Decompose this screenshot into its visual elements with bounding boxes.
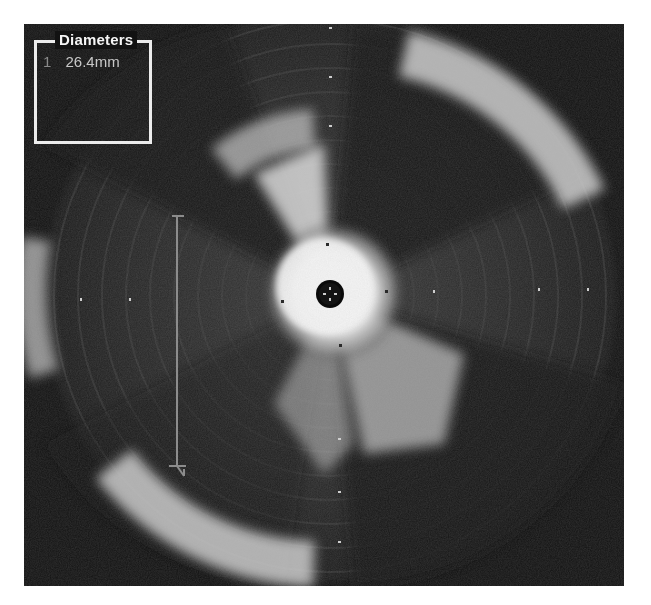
measurement-value: 26.4mm <box>66 53 120 70</box>
diameters-title: Diameters <box>55 31 137 49</box>
ultrasound-frame: Diameters 1 26.4mm <box>24 24 624 586</box>
diameters-panel: Diameters 1 26.4mm <box>34 40 152 144</box>
catheter-icon <box>316 280 344 308</box>
measurement-index: 1 <box>43 53 51 70</box>
measurement-row: 1 26.4mm <box>43 53 120 71</box>
